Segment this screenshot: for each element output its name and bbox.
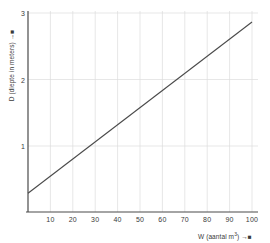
horizontal-gridlines [28,13,258,146]
chart-container: 10 20 30 40 50 60 70 80 90 100 1 2 3 W (… [0,0,270,243]
x-tick-label: 60 [158,216,166,223]
arrow-right-icon: →■ [241,233,252,240]
x-axis-label-text: W (aantal m [198,233,234,240]
y-tick-label: 3 [19,10,25,17]
x-tick-label: 10 [46,216,54,223]
x-tick-label: 80 [203,216,211,223]
x-tick-label: 50 [136,216,144,223]
x-axis-label-suffix: ) [237,233,239,240]
y-tick-label: 1 [19,143,25,150]
x-tick-label: 90 [226,216,234,223]
y-axis-label-text: D (diepte in meters) [8,42,15,101]
x-tick-label: 20 [69,216,77,223]
axis-lines [26,11,258,212]
x-tick-label: 30 [91,216,99,223]
x-tick-label: 70 [181,216,189,223]
x-tick-label: 100 [246,216,258,223]
x-tick-label: 40 [114,216,122,223]
arrow-up-icon: →■ [8,30,15,41]
y-axis-label: D (diepte in meters) →■ [8,24,15,108]
y-tick-label: 2 [19,76,25,83]
chart-plot-area [0,0,270,243]
x-axis-label: W (aantal m3) →■ [198,231,252,240]
vertical-gridlines [50,11,252,212]
